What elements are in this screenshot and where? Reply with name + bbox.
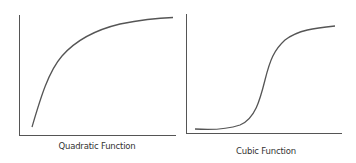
cubic-chart — [186, 14, 342, 134]
quadratic-chart — [19, 15, 176, 136]
quadratic-label: Quadratic Function — [58, 141, 135, 151]
cubic-label: Cubic Function — [236, 146, 296, 156]
cubic-curve — [195, 26, 335, 130]
quadratic-curve — [32, 18, 173, 128]
charts-canvas — [0, 0, 356, 163]
